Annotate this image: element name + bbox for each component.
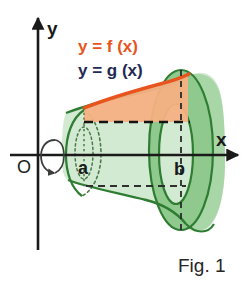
equation-g-label: y = g (x) <box>78 61 143 80</box>
x-axis-label: x <box>216 129 227 150</box>
y-axis-label: y <box>47 18 58 39</box>
figure-caption: Fig. 1 <box>178 255 226 276</box>
solid-of-revolution-diagram: y x O a b y = f (x) y = g (x) Fig. 1 <box>0 0 252 295</box>
rotation-arrow-icon <box>41 140 64 173</box>
bound-label-b: b <box>174 159 185 179</box>
bound-label-a: a <box>78 158 89 178</box>
equation-f-label: y = f (x) <box>78 37 138 56</box>
origin-label: O <box>17 157 31 177</box>
figure-container: y x O a b y = f (x) y = g (x) Fig. 1 <box>0 0 252 295</box>
